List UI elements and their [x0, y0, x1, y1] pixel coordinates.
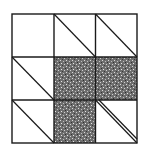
quilt-grid-diagram: [0, 0, 144, 151]
diagonal-r2c0: [12, 100, 54, 143]
diagonal-r1c0: [12, 57, 54, 100]
diagonal-r0c1: [54, 14, 96, 57]
diagonal-r0c2: [96, 14, 138, 57]
shaded-cell-r2c1: [54, 100, 96, 143]
shaded-cell-r1c1: [54, 57, 96, 100]
diagonal-r2c2-a: [96, 100, 138, 143]
shaded-cell-r1c2: [96, 57, 138, 100]
diagonal-r2c2-b: [99, 100, 137, 139]
